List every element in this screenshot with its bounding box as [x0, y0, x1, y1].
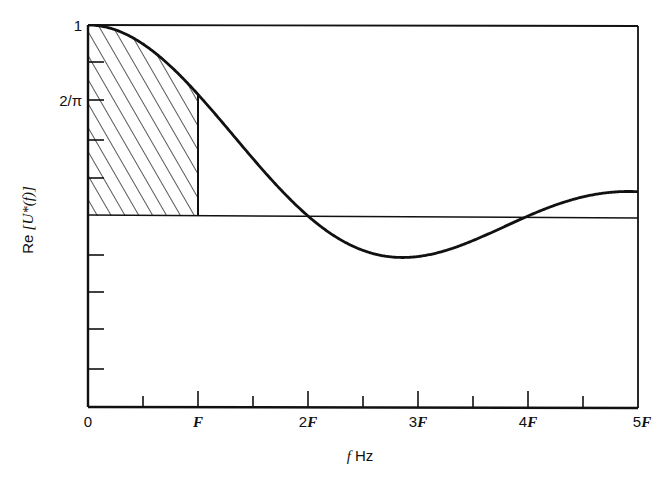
x-axis-title: f Hz — [347, 447, 374, 465]
y-axis-title-prefix: Re — [19, 235, 36, 254]
y-tick-label: 1 — [74, 17, 82, 34]
x-tick-label: 4F — [519, 413, 537, 431]
y-axis-title: Re [U*(f)] — [19, 186, 37, 254]
x-tick-label: 3F — [409, 413, 427, 431]
chart-canvas — [0, 0, 667, 478]
x-axis-title-unit: Hz — [355, 447, 373, 464]
hatched-area — [88, 25, 198, 216]
x-tick-label: 2F — [299, 413, 317, 431]
y-tick-label: 2/π — [59, 92, 82, 109]
x-tick-label: 0 — [84, 413, 92, 430]
zero-reference-line — [88, 215, 638, 218]
x-tick-label: F — [193, 413, 203, 431]
y-axis-title-bracket: [U*(f)] — [20, 186, 36, 230]
x-tick-label: 5F — [633, 413, 651, 431]
x-axis-title-variable: f — [347, 448, 351, 464]
